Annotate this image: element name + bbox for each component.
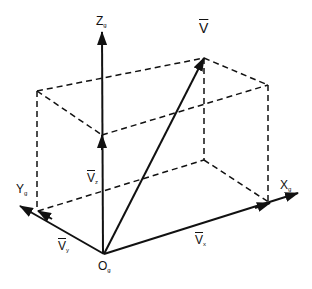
y-axis-label: Yg — [16, 183, 27, 196]
component-arrows — [38, 135, 270, 219]
x-axis-label: Xg — [280, 179, 291, 192]
box-dashed-edges — [37, 58, 270, 211]
axes — [20, 32, 298, 254]
vy-label: Vy — [58, 240, 69, 253]
vz-label: Vz — [87, 172, 98, 185]
origin-label: Og — [98, 260, 111, 273]
vector-v-label: V — [199, 21, 208, 35]
z-axis-label: Zg — [96, 15, 107, 28]
vector-diagram — [0, 0, 312, 289]
vx-label: Vx — [195, 234, 206, 247]
vector-v — [104, 58, 204, 254]
